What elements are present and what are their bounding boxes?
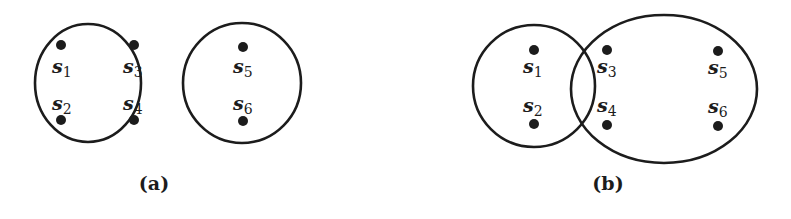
point-subscript: 4 (608, 103, 617, 119)
point-subscript: 5 (244, 64, 253, 80)
point-label-s6: s6 (707, 95, 728, 120)
point-label-s2: s2 (522, 94, 543, 119)
point-dot-s4 (602, 120, 612, 130)
point-label-s1: s1 (522, 55, 543, 80)
point-label-s1: s1 (51, 55, 72, 80)
point-subscript: 2 (63, 101, 72, 117)
diagram-svg: s1s3s2s4s5s6(a)s1s2s3s4s5s6(b) (0, 0, 791, 219)
panel-a: s1s3s2s4s5s6(a) (35, 23, 301, 194)
point-dot-s1 (529, 45, 539, 55)
point-subscript: 1 (63, 64, 72, 80)
point-label-s6: s6 (232, 92, 253, 117)
panel-caption-a: (a) (139, 172, 169, 194)
point-dot-s6 (713, 121, 723, 131)
point-subscript: 2 (534, 103, 543, 119)
panel-b: s1s2s3s4s5s6(b) (473, 15, 757, 194)
set-circle-a-1 (35, 24, 141, 142)
point-dot-s3 (129, 40, 139, 50)
set-diagram-figure: s1s3s2s4s5s6(a)s1s2s3s4s5s6(b) (0, 0, 791, 219)
set-ellipse-b-2 (571, 15, 757, 163)
point-label-s5: s5 (232, 55, 253, 80)
point-label-s2: s2 (51, 92, 72, 117)
point-dot-s3 (602, 45, 612, 55)
point-dot-s2 (529, 119, 539, 129)
point-subscript: 3 (608, 64, 617, 80)
point-label-s4: s4 (596, 94, 617, 119)
point-subscript: 1 (534, 64, 543, 80)
point-subscript: 5 (719, 65, 728, 81)
point-label-s5: s5 (707, 56, 728, 81)
point-subscript: 6 (719, 104, 728, 120)
point-label-s3: s3 (596, 55, 617, 80)
point-subscript: 6 (244, 101, 253, 117)
point-dot-s1 (56, 40, 66, 50)
point-subscript: 4 (134, 101, 143, 117)
point-dot-s6 (238, 116, 248, 126)
point-subscript: 3 (134, 64, 143, 80)
point-dot-s5 (238, 42, 248, 52)
point-dot-s5 (713, 46, 723, 56)
point-label-s3: s3 (122, 55, 143, 80)
panel-caption-b: (b) (592, 172, 623, 194)
